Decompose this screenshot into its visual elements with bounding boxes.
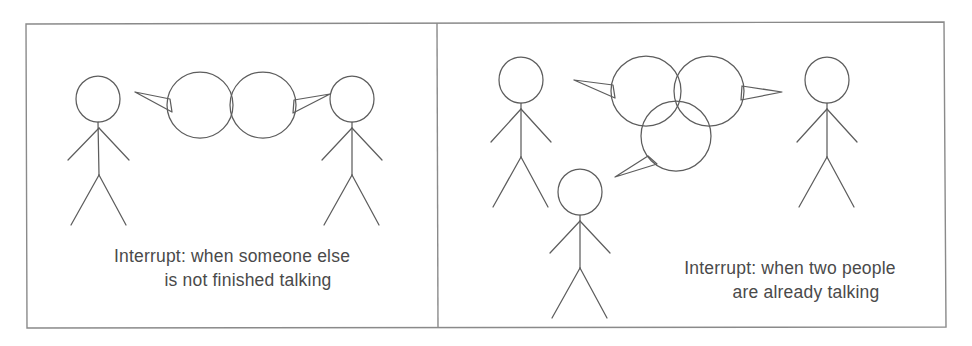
- illustration-canvas: Interrupt: when someone else is not fini…: [0, 0, 972, 346]
- caption-line-2: are already talking: [733, 282, 880, 302]
- caption-line-1: Interrupt: when two people: [684, 258, 895, 278]
- caption-line-2: is not finished talking: [164, 270, 331, 290]
- two-panel-interrupt-diagram: Interrupt: when someone else is not fini…: [0, 0, 972, 346]
- caption-line-1: Interrupt: when someone else: [114, 246, 350, 266]
